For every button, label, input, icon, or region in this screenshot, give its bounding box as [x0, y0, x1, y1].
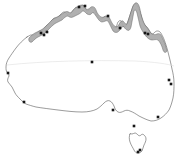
record-dot [23, 101, 26, 104]
australia-distribution-map: Outline map of Australia with shaded nor… [0, 0, 181, 159]
record-dot [144, 32, 147, 35]
map-canvas [0, 0, 181, 159]
record-dot [112, 109, 115, 112]
record-dot [46, 31, 49, 34]
record-dot [91, 61, 94, 64]
record-dot [147, 33, 150, 36]
record-dot [133, 125, 136, 128]
record-dot [7, 72, 10, 75]
record-dot [170, 83, 173, 86]
record-dot [139, 149, 142, 152]
record-dot [157, 116, 160, 119]
record-dot [78, 6, 81, 9]
record-dot [107, 15, 110, 18]
record-dot [84, 5, 87, 8]
record-dot [168, 79, 171, 82]
record-dot [119, 27, 122, 30]
record-dot [43, 34, 46, 37]
record-dot [40, 32, 43, 35]
